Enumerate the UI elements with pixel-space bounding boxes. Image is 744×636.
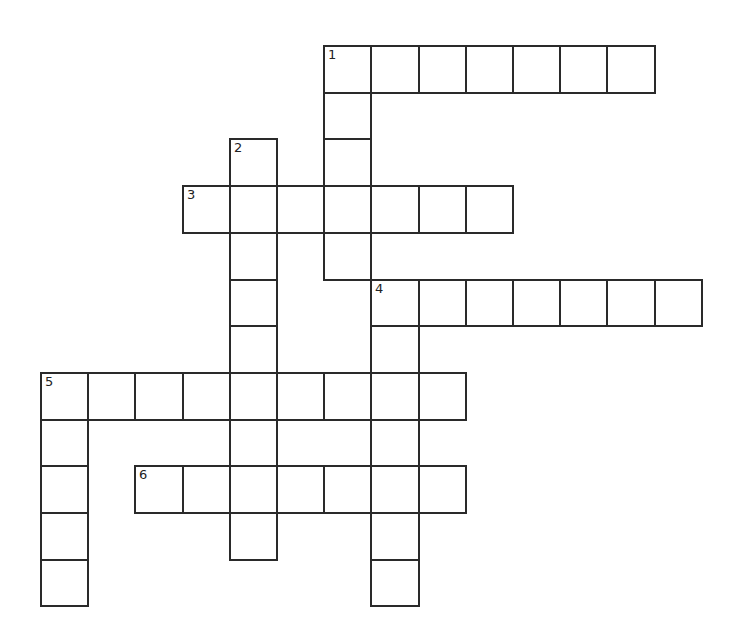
crossword-cell[interactable] (370, 465, 420, 514)
crossword-cell[interactable] (323, 372, 372, 421)
crossword-cell[interactable] (370, 419, 420, 467)
crossword-cell[interactable] (654, 279, 703, 327)
crossword-cell[interactable] (370, 512, 420, 561)
crossword-cell[interactable] (40, 419, 89, 467)
crossword-cell[interactable] (229, 232, 278, 281)
crossword-cell[interactable] (370, 325, 420, 374)
crossword-cell[interactable] (134, 372, 184, 421)
crossword-cell[interactable] (229, 372, 278, 421)
crossword-cell[interactable] (418, 372, 467, 421)
clue-number: 3 (187, 188, 195, 201)
crossword-cell[interactable] (606, 45, 656, 94)
crossword-cell[interactable] (512, 45, 561, 94)
crossword-cell[interactable] (606, 279, 656, 327)
crossword-cell[interactable] (418, 279, 467, 327)
crossword-cell[interactable] (370, 559, 420, 607)
crossword-cell[interactable] (229, 279, 278, 327)
clue-number: 1 (328, 48, 336, 61)
crossword-grid: 123456 (0, 0, 744, 636)
crossword-cell[interactable]: 4 (370, 279, 420, 327)
crossword-cell[interactable] (87, 372, 136, 421)
crossword-cell[interactable] (40, 512, 89, 561)
crossword-cell[interactable] (370, 45, 420, 94)
crossword-cell[interactable] (418, 465, 467, 514)
crossword-cell[interactable]: 5 (40, 372, 89, 421)
crossword-cell[interactable] (465, 185, 514, 234)
crossword-cell[interactable] (276, 185, 325, 234)
crossword-cell[interactable] (276, 372, 325, 421)
crossword-cell[interactable] (418, 185, 467, 234)
crossword-cell[interactable] (40, 465, 89, 514)
clue-number: 2 (234, 141, 242, 154)
crossword-cell[interactable] (229, 185, 278, 234)
crossword-cell[interactable] (465, 279, 514, 327)
crossword-cell[interactable] (465, 45, 514, 94)
crossword-cell[interactable] (229, 419, 278, 467)
crossword-cell[interactable] (229, 325, 278, 374)
crossword-cell[interactable] (370, 372, 420, 421)
crossword-cell[interactable] (229, 512, 278, 561)
crossword-cell[interactable] (559, 45, 608, 94)
clue-number: 6 (139, 468, 147, 481)
crossword-cell[interactable] (229, 465, 278, 514)
crossword-cell[interactable] (323, 232, 372, 281)
crossword-cell[interactable] (40, 559, 89, 607)
crossword-cell[interactable]: 1 (323, 45, 372, 94)
crossword-cell[interactable] (276, 465, 325, 514)
crossword-cell[interactable] (323, 185, 372, 234)
crossword-cell[interactable] (512, 279, 561, 327)
crossword-cell[interactable] (418, 45, 467, 94)
crossword-cell[interactable] (323, 465, 372, 514)
crossword-cell[interactable] (323, 92, 372, 140)
crossword-cell[interactable] (182, 372, 231, 421)
crossword-cell[interactable] (370, 185, 420, 234)
crossword-cell[interactable]: 2 (229, 138, 278, 187)
crossword-cell[interactable] (182, 465, 231, 514)
clue-number: 4 (375, 282, 383, 295)
clue-number: 5 (45, 375, 53, 388)
crossword-cell[interactable] (323, 138, 372, 187)
crossword-cell[interactable] (559, 279, 608, 327)
crossword-cell[interactable]: 6 (134, 465, 184, 514)
crossword-cell[interactable]: 3 (182, 185, 231, 234)
